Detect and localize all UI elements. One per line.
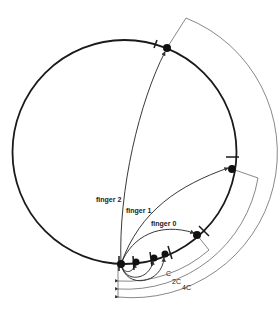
distance-c-label: C	[166, 270, 171, 277]
node-4	[193, 231, 201, 239]
diagram-canvas	[0, 0, 278, 312]
node-3	[162, 251, 169, 258]
finger-1-label: finger 1	[126, 207, 151, 214]
finger-2-label: finger 2	[96, 196, 121, 203]
node-2	[151, 255, 158, 262]
node-5	[228, 165, 236, 173]
distance-arcs	[118, 18, 277, 298]
finger-2-arrow	[121, 52, 165, 264]
arc-2c	[118, 178, 258, 289]
chord-finger-diagram: finger 0 finger 1 finger 2 C 2C 4C	[0, 0, 278, 312]
arc-4c	[118, 18, 277, 298]
finger-1-arrow	[121, 168, 228, 264]
node-1	[133, 259, 140, 266]
distance-4c-label: 4C	[182, 284, 191, 291]
finger-arrows	[121, 52, 228, 281]
node-6	[163, 44, 171, 52]
node-base	[117, 260, 125, 268]
finger-0-label: finger 0	[151, 220, 176, 227]
distance-2c-label: 2C	[172, 278, 181, 285]
tick-marks	[119, 40, 239, 271]
